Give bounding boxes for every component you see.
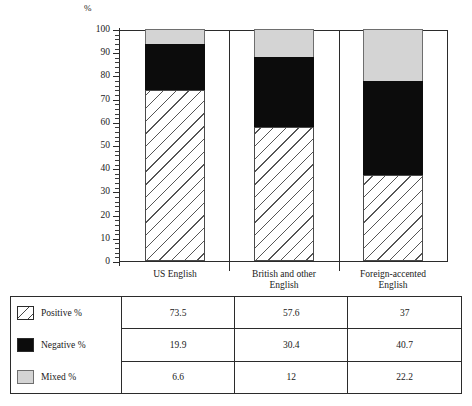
legend-cell: Positive % [11, 297, 122, 329]
stacked-bar[interactable] [254, 29, 314, 261]
y-tick-major [113, 76, 120, 77]
y-tick-label: 30 [82, 187, 110, 197]
legend-value-table: Positive %73.557.637Negative %19.930.440… [11, 297, 461, 393]
gray-swatch [17, 370, 34, 384]
stacked-bar-chart: % 0102030405060708090100 US EnglishBriti… [0, 0, 472, 290]
bar-segment-negative[interactable] [145, 44, 205, 90]
y-tick-major [113, 169, 120, 170]
y-tick-label: 40 [82, 164, 110, 174]
bar-segment-positive[interactable] [254, 127, 314, 261]
y-tick-major [113, 192, 120, 193]
x-category-label: US English [115, 269, 235, 280]
x-category-label-line: Foreign-accented [333, 269, 453, 280]
table-value-cell: 6.6 [122, 361, 235, 393]
x-category-label-line: English [333, 280, 453, 291]
stacked-bar[interactable] [145, 29, 205, 261]
legend-label: Mixed % [41, 372, 76, 382]
y-tick-label: 100 [82, 25, 110, 35]
hatched-swatch [17, 306, 34, 320]
y-tick-label: 70 [82, 95, 110, 105]
table-value-cell: 30.4 [235, 329, 348, 361]
table-value-cell: 40.7 [348, 329, 461, 361]
table-value-cell: 37 [348, 297, 461, 329]
legend-cell: Mixed % [11, 361, 122, 393]
x-category-label-line: English [224, 280, 344, 291]
black-swatch [17, 338, 34, 352]
table-body: Positive %73.557.637Negative %19.930.440… [11, 297, 461, 393]
plot-area [120, 30, 448, 262]
x-category-label-line: British and other [224, 269, 344, 280]
plot-category-divider [339, 31, 340, 263]
table-row: Positive %73.557.637 [11, 297, 461, 329]
y-tick-label: 20 [82, 211, 110, 221]
bar-segment-negative[interactable] [363, 81, 423, 175]
y-tick-label: 50 [82, 141, 110, 151]
table-row: Negative %19.930.440.7 [11, 329, 461, 361]
y-tick-major [113, 262, 120, 263]
y-tick-major [113, 30, 120, 31]
y-tick-label: 90 [82, 48, 110, 58]
y-axis-unit-label: % [84, 3, 92, 13]
legend-label: Negative % [41, 340, 86, 350]
x-category-label-line: US English [115, 269, 235, 280]
table-value-cell: 57.6 [235, 297, 348, 329]
bar-segment-mixed[interactable] [363, 29, 423, 81]
table-value-cell: 73.5 [122, 297, 235, 329]
chart-page: % 0102030405060708090100 US EnglishBriti… [0, 0, 472, 406]
y-tick-label: 10 [82, 234, 110, 244]
y-tick-label: 0 [82, 257, 110, 267]
y-tick-major [113, 216, 120, 217]
data-table: Positive %73.557.637Negative %19.930.440… [10, 296, 462, 394]
y-tick-major [113, 53, 120, 54]
plot-category-divider [229, 31, 230, 263]
y-tick-major [113, 146, 120, 147]
bar-segment-mixed[interactable] [254, 29, 314, 57]
bar-segment-negative[interactable] [254, 57, 314, 128]
bar-segment-mixed[interactable] [145, 29, 205, 44]
x-category-label: Foreign-accentedEnglish [333, 269, 453, 291]
table-value-cell: 22.2 [348, 361, 461, 393]
y-tick-major [113, 100, 120, 101]
y-tick-label: 80 [82, 71, 110, 81]
y-tick-label: 60 [82, 118, 110, 128]
stacked-bar[interactable] [363, 29, 423, 261]
legend-label: Positive % [41, 308, 82, 318]
table-value-cell: 19.9 [122, 329, 235, 361]
x-category-label: British and otherEnglish [224, 269, 344, 291]
y-tick-major [113, 239, 120, 240]
bar-segment-positive[interactable] [145, 90, 205, 261]
y-tick-major [113, 123, 120, 124]
legend-cell: Negative % [11, 329, 122, 361]
table-row: Mixed %6.61222.2 [11, 361, 461, 393]
table-value-cell: 12 [235, 361, 348, 393]
bar-segment-positive[interactable] [363, 175, 423, 261]
